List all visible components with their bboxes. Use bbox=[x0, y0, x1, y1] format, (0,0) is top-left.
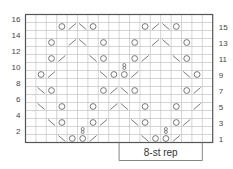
ssk-icon bbox=[58, 136, 65, 142]
k2tog-icon bbox=[90, 136, 97, 142]
row-label-left: 14 bbox=[12, 31, 21, 40]
row-label-right: 5 bbox=[219, 103, 224, 112]
yarn-over-icon bbox=[101, 56, 107, 62]
ssk-icon bbox=[121, 104, 128, 110]
yarn-over-icon bbox=[90, 104, 96, 110]
k2tog-icon bbox=[183, 120, 190, 126]
yarn-over-icon bbox=[184, 40, 190, 46]
yarn-over-icon bbox=[173, 24, 179, 30]
yarn-over-icon bbox=[163, 136, 169, 142]
k2tog-icon bbox=[48, 72, 55, 78]
k2tog-icon bbox=[194, 104, 201, 110]
yarn-over-icon bbox=[132, 88, 138, 94]
k2tog-icon bbox=[152, 40, 159, 46]
yarn-over-icon bbox=[142, 24, 148, 30]
twisted-stitch-icon bbox=[164, 128, 167, 131]
k2tog-icon bbox=[69, 24, 76, 30]
yarn-over-icon bbox=[69, 136, 75, 142]
chart-grid bbox=[26, 15, 213, 143]
ssk-icon bbox=[79, 24, 86, 30]
ssk-icon bbox=[79, 40, 86, 46]
row-label-right: 7 bbox=[219, 87, 224, 96]
twisted-stitch-icon bbox=[123, 67, 126, 70]
k2tog-icon bbox=[152, 24, 159, 30]
twisted-stitch-icon bbox=[81, 131, 84, 134]
row-label-left: 2 bbox=[16, 127, 21, 136]
yarn-over-icon bbox=[101, 40, 107, 46]
k2tog-icon bbox=[69, 40, 76, 46]
row-label-right: 9 bbox=[219, 71, 224, 80]
k2tog-icon bbox=[110, 88, 117, 94]
row-label-left: 8 bbox=[16, 79, 21, 88]
repeat-label: 8-st rep bbox=[144, 147, 178, 158]
yarn-over-icon bbox=[38, 72, 44, 78]
yarn-over-icon bbox=[184, 88, 190, 94]
yarn-over-icon bbox=[132, 56, 138, 62]
row-label-left: 16 bbox=[12, 15, 21, 24]
twisted-stitch-icon bbox=[164, 131, 167, 134]
k2tog-icon bbox=[173, 136, 180, 142]
ssk-icon bbox=[38, 104, 45, 110]
yarn-over-icon bbox=[173, 120, 179, 126]
yarn-over-icon bbox=[153, 136, 159, 142]
knitting-chart: 24681012141613579111315 8-st rep bbox=[0, 0, 233, 169]
ssk-icon bbox=[142, 136, 149, 142]
k2tog-icon bbox=[100, 120, 107, 126]
yarn-over-icon bbox=[173, 104, 179, 110]
ssk-icon bbox=[162, 24, 169, 30]
row-label-right: 13 bbox=[219, 39, 228, 48]
yarn-over-icon bbox=[194, 72, 200, 78]
ssk-icon bbox=[48, 120, 55, 126]
row-label-left: 10 bbox=[12, 63, 21, 72]
ssk-icon bbox=[90, 56, 97, 62]
twisted-stitch-icon bbox=[81, 128, 84, 131]
yarn-over-icon bbox=[59, 104, 65, 110]
ssk-icon bbox=[183, 72, 190, 78]
yarn-over-icon bbox=[49, 40, 55, 46]
yarn-over-icon bbox=[80, 136, 86, 142]
yarn-over-icon bbox=[90, 120, 96, 126]
yarn-over-icon bbox=[111, 72, 117, 78]
yarn-over-icon bbox=[101, 88, 107, 94]
ssk-icon bbox=[162, 40, 169, 46]
row-labels: 24681012141613579111315 bbox=[12, 15, 229, 144]
yarn-over-icon bbox=[132, 40, 138, 46]
k2tog-icon bbox=[142, 56, 149, 62]
row-label-right: 15 bbox=[219, 23, 228, 32]
yarn-over-icon bbox=[184, 56, 190, 62]
twisted-stitch-icon bbox=[123, 64, 126, 67]
ssk-icon bbox=[131, 120, 138, 126]
k2tog-icon bbox=[131, 72, 138, 78]
k2tog-icon bbox=[58, 56, 65, 62]
ssk-icon bbox=[100, 72, 107, 78]
row-label-left: 6 bbox=[16, 95, 21, 104]
row-label-right: 1 bbox=[219, 135, 224, 144]
ssk-icon bbox=[121, 88, 128, 94]
row-label-right: 3 bbox=[219, 119, 224, 128]
yarn-over-icon bbox=[49, 56, 55, 62]
yarn-over-icon bbox=[90, 24, 96, 30]
yarn-over-icon bbox=[121, 72, 127, 78]
row-label-left: 4 bbox=[16, 111, 21, 120]
k2tog-icon bbox=[194, 88, 201, 94]
yarn-over-icon bbox=[59, 24, 65, 30]
ssk-icon bbox=[38, 88, 45, 94]
ssk-icon bbox=[173, 56, 180, 62]
row-label-left: 12 bbox=[12, 47, 21, 56]
repeat-box: 8-st rep bbox=[119, 143, 202, 161]
yarn-over-icon bbox=[142, 120, 148, 126]
k2tog-icon bbox=[110, 104, 117, 110]
yarn-over-icon bbox=[142, 104, 148, 110]
yarn-over-icon bbox=[49, 88, 55, 94]
yarn-over-icon bbox=[59, 120, 65, 126]
row-label-right: 11 bbox=[219, 55, 228, 64]
